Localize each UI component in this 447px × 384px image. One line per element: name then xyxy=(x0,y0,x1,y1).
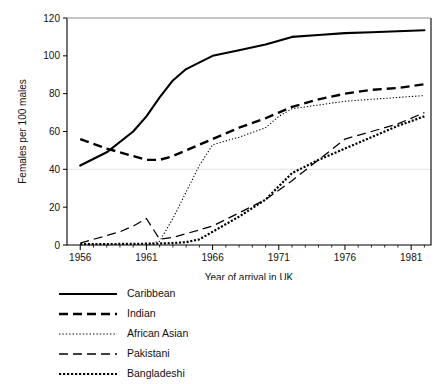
y-tick-label: 60 xyxy=(49,126,61,137)
legend-key-caribbean xyxy=(58,287,118,301)
series-group xyxy=(80,30,424,245)
x-tick-label: 1961 xyxy=(135,252,158,263)
legend-item-pakistani[interactable]: Pakistani xyxy=(58,344,170,363)
legend-label-african-asian: African Asian xyxy=(127,328,188,339)
x-tick-label: 1956 xyxy=(69,252,92,263)
legend-key-pakistani xyxy=(58,347,118,361)
series-line-african-asian xyxy=(146,96,424,245)
y-tick-label: 0 xyxy=(54,240,60,251)
x-tick-label: 1981 xyxy=(400,252,423,263)
y-tick-label: 80 xyxy=(49,88,61,99)
legend-label-bangladeshi: Bangladeshi xyxy=(127,368,185,379)
y-tick-label: 120 xyxy=(43,13,60,24)
y-tick-label: 40 xyxy=(49,164,61,175)
x-tick-label: 1971 xyxy=(268,252,291,263)
y-axis-ticks: 020406080100120 xyxy=(43,13,67,251)
x-tick-label: 1966 xyxy=(201,252,224,263)
plot-area: 020406080100120 195619611966197119761981… xyxy=(0,0,447,280)
legend-key-african-asian xyxy=(58,327,118,341)
legend-item-indian[interactable]: Indian xyxy=(58,304,156,323)
legend-label-caribbean: Caribbean xyxy=(127,288,175,299)
legend-label-indian: Indian xyxy=(127,308,156,319)
x-tick-label: 1976 xyxy=(334,252,357,263)
chart-page: 020406080100120 195619611966197119761981… xyxy=(0,0,447,384)
legend-item-caribbean[interactable]: Caribbean xyxy=(58,284,175,303)
chart-legend: Caribbean Indian African Asian Pakistani… xyxy=(0,280,447,384)
series-line-bangladeshi xyxy=(80,116,424,244)
series-line-caribbean xyxy=(80,30,424,165)
y-tick-label: 20 xyxy=(49,202,61,213)
line-chart: 020406080100120 195619611966197119761981… xyxy=(0,0,447,280)
legend-item-bangladeshi[interactable]: Bangladeshi xyxy=(58,364,185,383)
legend-item-african-asian[interactable]: African Asian xyxy=(58,324,188,343)
y-axis-title: Females per 100 males xyxy=(17,79,28,184)
legend-key-bangladeshi xyxy=(58,367,118,381)
x-axis-title: Year of arrival in UK xyxy=(205,272,294,280)
legend-label-pakistani: Pakistani xyxy=(127,348,170,359)
x-axis-ticks: 195619611966197119761981 xyxy=(69,245,424,263)
legend-key-indian xyxy=(58,307,118,321)
series-line-indian xyxy=(80,84,424,160)
y-tick-label: 100 xyxy=(43,50,60,61)
